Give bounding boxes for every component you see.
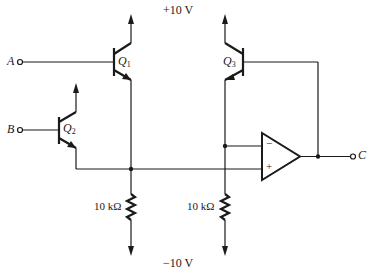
q1-letter: Q [118, 54, 127, 68]
q2-subscript: 2 [72, 127, 76, 136]
transistor-q1 [114, 14, 134, 169]
q3-subscript: 3 [232, 60, 236, 69]
supply-negative-label: −10 V [163, 256, 193, 271]
terminal-a [18, 60, 114, 65]
terminal-c-label: C [358, 148, 366, 163]
op-amp [223, 133, 356, 180]
r2-label: 10 kΩ [187, 200, 214, 212]
opamp-inverting-label: − [266, 137, 272, 149]
supply-positive-label: +10 V [163, 3, 193, 18]
terminal-b [18, 128, 59, 133]
terminal-a-label: A [7, 54, 14, 69]
circuit-diagram [0, 0, 370, 274]
terminal-b-label: B [7, 122, 14, 137]
q3-label: Q3 [223, 54, 236, 69]
r1-label: 10 kΩ [94, 200, 121, 212]
q1-subscript: 1 [127, 60, 131, 69]
q3-letter: Q [223, 54, 232, 68]
resistor-r1 [127, 169, 135, 256]
emitter-node-wire [76, 167, 262, 171]
q1-label: Q1 [118, 54, 131, 69]
q2-letter: Q [63, 121, 72, 135]
q2-label: Q2 [63, 121, 76, 136]
opamp-noninverting-label: + [266, 160, 272, 172]
resistor-r2 [221, 194, 229, 256]
